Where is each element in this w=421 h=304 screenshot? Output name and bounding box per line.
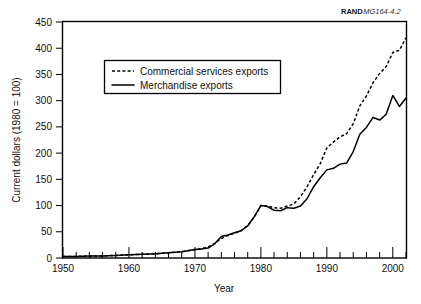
y-tick-label-150: 150	[35, 174, 52, 185]
y-axis-tick-labels: 050100150200250300350400450	[35, 17, 52, 264]
y-tick-label-50: 50	[41, 226, 53, 237]
y-tick-label-350: 350	[35, 69, 52, 80]
plot-frame	[63, 22, 407, 259]
x-axis-major-ticks	[63, 247, 393, 258]
y-tick-label-450: 450	[35, 17, 52, 28]
rand-logo-text: RAND	[341, 7, 363, 16]
x-axis-title: Year	[214, 283, 235, 294]
x-tick-label-1980: 1980	[250, 263, 273, 274]
y-tick-label-200: 200	[35, 148, 52, 159]
x-tick-label-1960: 1960	[118, 263, 141, 274]
exports-index-line-chart: RAND MG164-4.2 0501001502002503003504004…	[0, 0, 421, 304]
y-axis-title: Current dollars (1980 = 100)	[11, 77, 22, 202]
y-tick-label-400: 400	[35, 43, 52, 54]
y-tick-label-300: 300	[35, 95, 52, 106]
x-tick-label-1990: 1990	[316, 263, 339, 274]
y-tick-label-100: 100	[35, 200, 52, 211]
y-tick-label-0: 0	[46, 253, 52, 264]
x-tick-label-1950: 1950	[52, 263, 75, 274]
figure-container: RAND MG164-4.2 0501001502002503003504004…	[0, 0, 421, 304]
legend-label-merchandise: Merchandise exports	[140, 80, 233, 91]
legend-label-commercial-services: Commercial services exports	[140, 66, 268, 77]
report-number-text: MG164-4.2	[363, 7, 401, 16]
credit-line: RAND MG164-4.2	[341, 7, 402, 16]
x-axis-tick-labels: 195019601970198019902000	[52, 263, 404, 274]
y-tick-label-250: 250	[35, 121, 52, 132]
x-tick-label-2000: 2000	[382, 263, 405, 274]
chart-legend: Commercial services exports Merchandise …	[105, 61, 281, 94]
x-tick-label-1970: 1970	[184, 263, 207, 274]
